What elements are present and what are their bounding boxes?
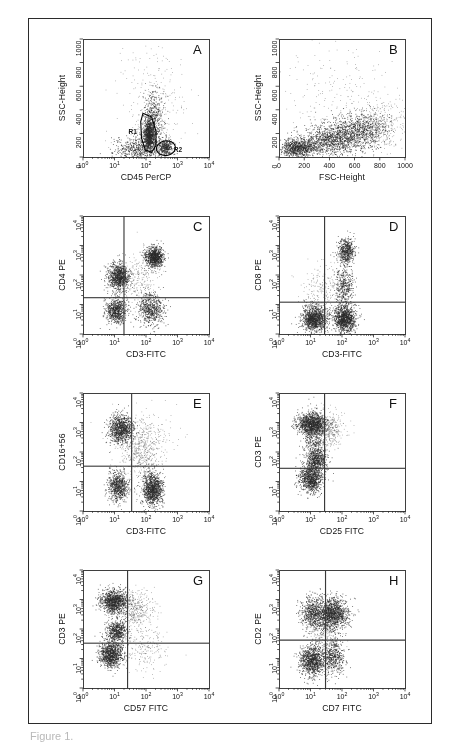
x-axis-label: CD3-FITC xyxy=(83,526,209,536)
x-tick-label: 103 xyxy=(360,516,388,523)
x-tick-label: 101 xyxy=(297,516,325,523)
x-axis-label: CD3-FITC xyxy=(279,349,405,359)
y-axis-label: CD3 PE xyxy=(253,393,263,511)
x-tick-label: 104 xyxy=(391,516,419,523)
x-tick-label: 102 xyxy=(328,339,356,346)
y-tick-label: 103 xyxy=(74,244,81,266)
y-tick-label: 100 xyxy=(74,510,81,532)
x-tick-label: 103 xyxy=(164,162,192,169)
y-tick-label: 200 xyxy=(270,132,277,154)
y-tick-label: 1000 xyxy=(270,38,277,60)
y-tick-label: 103 xyxy=(270,244,277,266)
x-tick-label: 400 xyxy=(315,162,343,169)
y-tick-label: 101 xyxy=(270,303,277,325)
y-tick-label: 100 xyxy=(270,333,277,355)
panel-letter-f: F xyxy=(389,396,397,411)
y-axis-label: CD2 PE xyxy=(253,570,263,688)
x-tick-label: 102 xyxy=(132,162,160,169)
y-tick-label: 102 xyxy=(270,274,277,296)
panel-letter-c: C xyxy=(193,219,203,234)
gate-label-r2: R2 xyxy=(174,146,182,153)
scatter-panel-g: G100101102103104100101102103104CD57 FITC… xyxy=(37,556,229,732)
y-tick-label: 600 xyxy=(74,85,81,107)
panel-letter-g: G xyxy=(193,573,203,588)
y-tick-label: 0 xyxy=(74,156,81,178)
figure-border: A10010110210310402004006008001000CD45 Pe… xyxy=(28,18,432,724)
x-tick-label: 103 xyxy=(164,693,192,700)
y-axis-label: SSC-Height xyxy=(253,39,263,157)
gate-label-r1: R1 xyxy=(129,128,137,135)
x-tick-label: 103 xyxy=(360,693,388,700)
x-tick-label: 104 xyxy=(195,162,223,169)
y-tick-label: 100 xyxy=(270,687,277,709)
y-axis-label: SSC-Height xyxy=(57,39,67,157)
x-tick-label: 104 xyxy=(195,516,223,523)
panel-letter-d: D xyxy=(389,219,399,234)
y-tick-label: 102 xyxy=(270,451,277,473)
y-tick-label: 104 xyxy=(74,569,81,591)
x-tick-label: 101 xyxy=(101,516,129,523)
x-tick-label: 104 xyxy=(391,693,419,700)
x-tick-label: 800 xyxy=(366,162,394,169)
x-tick-label: 100 xyxy=(69,162,97,169)
x-tick-label: 102 xyxy=(328,516,356,523)
x-tick-label: 101 xyxy=(297,339,325,346)
y-tick-label: 101 xyxy=(74,657,81,679)
panel-letter-b: B xyxy=(389,42,398,57)
y-tick-label: 1000 xyxy=(74,38,81,60)
x-tick-label: 200 xyxy=(290,162,318,169)
x-axis-label: CD25 FITC xyxy=(279,526,405,536)
x-tick-label: 102 xyxy=(132,693,160,700)
y-tick-label: 0 xyxy=(270,156,277,178)
x-tick-label: 101 xyxy=(101,162,129,169)
y-axis-label: CD4 PE xyxy=(57,216,67,334)
scatter-panel-a: A10010110210310402004006008001000CD45 Pe… xyxy=(37,25,229,201)
y-tick-label: 103 xyxy=(74,598,81,620)
panel-letter-h: H xyxy=(389,573,399,588)
y-tick-label: 102 xyxy=(74,274,81,296)
y-tick-label: 104 xyxy=(270,392,277,414)
y-tick-label: 102 xyxy=(74,451,81,473)
scatter-panel-d: D100101102103104100101102103104CD3-FITCC… xyxy=(233,202,425,378)
x-tick-label: 104 xyxy=(195,693,223,700)
x-axis-label: CD3-FITC xyxy=(83,349,209,359)
scatter-panel-h: H100101102103104100101102103104CD7 FITCC… xyxy=(233,556,425,732)
y-tick-label: 104 xyxy=(270,215,277,237)
y-tick-label: 104 xyxy=(74,392,81,414)
panel-letter-e: E xyxy=(193,396,202,411)
y-tick-label: 104 xyxy=(270,569,277,591)
y-tick-label: 103 xyxy=(270,598,277,620)
y-tick-label: 103 xyxy=(74,421,81,443)
y-tick-label: 800 xyxy=(74,61,81,83)
y-tick-label: 100 xyxy=(74,687,81,709)
x-tick-label: 103 xyxy=(164,516,192,523)
x-tick-label: 104 xyxy=(391,339,419,346)
x-axis-label: CD45 PerCP xyxy=(83,172,209,182)
x-tick-label: 0 xyxy=(265,162,293,169)
y-tick-label: 102 xyxy=(74,628,81,650)
x-tick-label: 103 xyxy=(164,339,192,346)
x-tick-label: 101 xyxy=(297,693,325,700)
x-tick-label: 102 xyxy=(328,693,356,700)
y-tick-label: 103 xyxy=(270,421,277,443)
scatter-panel-e: E100101102103104100101102103104CD3-FITCC… xyxy=(37,379,229,555)
y-tick-label: 100 xyxy=(74,333,81,355)
y-tick-label: 600 xyxy=(270,85,277,107)
x-tick-label: 600 xyxy=(341,162,369,169)
y-axis-label: CD8 PE xyxy=(253,216,263,334)
x-tick-label: 101 xyxy=(101,339,129,346)
scatter-panel-f: F100101102103104100101102103104CD25 FITC… xyxy=(233,379,425,555)
x-tick-label: 101 xyxy=(101,693,129,700)
y-tick-label: 400 xyxy=(270,108,277,130)
y-axis-label: CD16+56 xyxy=(57,393,67,511)
x-axis-label: FSC-Height xyxy=(279,172,405,182)
figure-caption: Figure 1. xyxy=(30,730,430,747)
y-tick-label: 101 xyxy=(270,480,277,502)
x-tick-label: 103 xyxy=(360,339,388,346)
panel-letter-a: A xyxy=(193,42,202,57)
y-tick-label: 101 xyxy=(74,303,81,325)
y-tick-label: 400 xyxy=(74,108,81,130)
y-tick-label: 101 xyxy=(270,657,277,679)
x-tick-label: 102 xyxy=(132,516,160,523)
y-tick-label: 200 xyxy=(74,132,81,154)
